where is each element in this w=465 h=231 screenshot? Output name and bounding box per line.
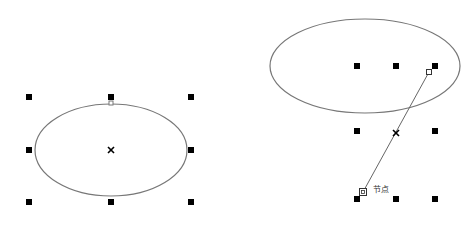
selection-handle[interactable] <box>354 63 360 69</box>
selection-handle[interactable] <box>26 147 32 153</box>
selection-handle[interactable] <box>108 199 114 205</box>
start-node-icon[interactable] <box>109 101 113 105</box>
selection-handle[interactable] <box>393 196 399 202</box>
ellipse-node-icon[interactable] <box>427 70 432 75</box>
cursor-node-icon <box>360 189 367 196</box>
right-ellipse-node-edit <box>270 19 460 202</box>
selection-handle[interactable] <box>354 128 360 134</box>
center-x-icon[interactable] <box>108 147 114 153</box>
selection-handle[interactable] <box>354 196 360 202</box>
selection-handle[interactable] <box>108 94 114 100</box>
selection-handle[interactable] <box>188 147 194 153</box>
selection-handle[interactable] <box>188 94 194 100</box>
selection-handle[interactable] <box>26 199 32 205</box>
diagram-canvas <box>0 0 465 231</box>
ellipse-shape[interactable] <box>270 19 460 113</box>
selection-handle[interactable] <box>432 196 438 202</box>
selection-handle[interactable] <box>432 63 438 69</box>
selection-handle[interactable] <box>432 128 438 134</box>
cursor-node-label: 节点 <box>373 186 389 194</box>
selection-handle[interactable] <box>26 94 32 100</box>
center-x-icon[interactable] <box>393 130 399 136</box>
left-ellipse-selection <box>26 94 194 205</box>
selection-handle[interactable] <box>393 63 399 69</box>
selection-handle[interactable] <box>188 199 194 205</box>
